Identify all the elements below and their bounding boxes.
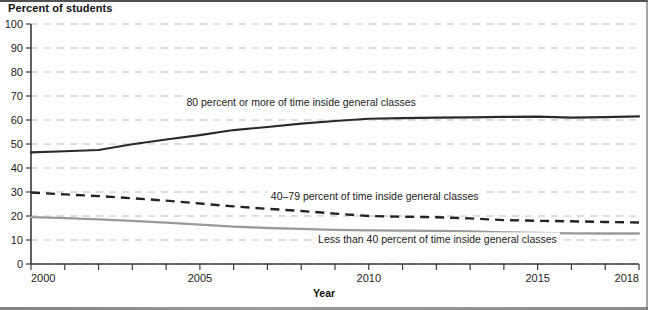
series-line-0 <box>31 116 639 152</box>
x-tick-label-2015: 2015 <box>525 272 549 284</box>
gridlines-group <box>31 24 639 264</box>
y-tick-label-30: 30 <box>11 186 23 198</box>
y-tick-label-100: 100 <box>5 18 23 30</box>
x-tick-label-2010: 2010 <box>357 272 381 284</box>
y-tick-label-90: 90 <box>11 42 23 54</box>
line-chart-plot: 0102030405060708090100 20002005201020152… <box>0 0 648 285</box>
x-tick-label-2018: 2018 <box>615 272 639 284</box>
series-line-2 <box>31 217 639 233</box>
y-tick-label-80: 80 <box>11 66 23 78</box>
series-label-1: 40–79 percent of time inside general cla… <box>271 190 479 202</box>
series-label-0: 80 percent or more of time inside genera… <box>186 96 415 108</box>
y-tick-label-20: 20 <box>11 210 23 222</box>
y-tick-label-60: 60 <box>11 114 23 126</box>
x-axis-tick-labels: 20002005201020152018 <box>31 272 639 284</box>
y-tick-label-50: 50 <box>11 138 23 150</box>
series-label-2: Less than 40 percent of time inside gene… <box>318 233 557 245</box>
y-tick-label-40: 40 <box>11 162 23 174</box>
y-tick-label-0: 0 <box>17 258 23 270</box>
chart-container: Percent of students 01020304050607080901… <box>0 0 648 310</box>
x-tick-label-2005: 2005 <box>188 272 212 284</box>
x-tick-label-2000: 2000 <box>31 272 55 284</box>
x-axis-title: Year <box>0 287 648 299</box>
y-tick-label-70: 70 <box>11 90 23 102</box>
y-tick-label-10: 10 <box>11 234 23 246</box>
y-axis-tick-labels: 0102030405060708090100 <box>5 18 23 270</box>
